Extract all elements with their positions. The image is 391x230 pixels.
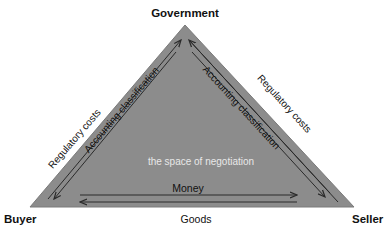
space-of-negotiation-label: the space of negotiation: [148, 156, 254, 167]
seller-label: Seller: [352, 213, 384, 225]
buyer-label: Buyer: [4, 213, 37, 225]
money-label: Money: [172, 182, 204, 194]
negotiation-triangle-diagram: Government Buyer Seller Regulatory costs…: [0, 0, 391, 230]
goods-label: Goods: [181, 213, 212, 225]
government-label: Government: [151, 7, 219, 19]
